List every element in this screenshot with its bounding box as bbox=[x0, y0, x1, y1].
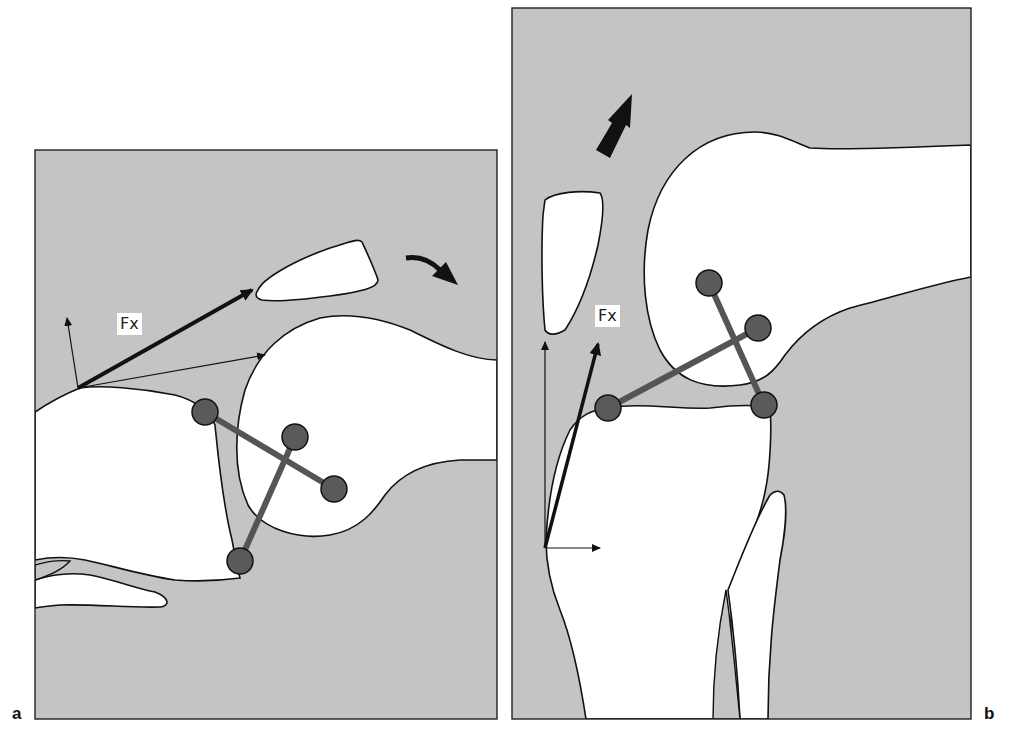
knee-mechanics-figure: Fx Fx a b bbox=[0, 0, 1009, 742]
force-label-a: Fx bbox=[117, 313, 142, 335]
force-label-b: Fx bbox=[595, 305, 620, 327]
panel-a bbox=[35, 150, 497, 719]
panel-b bbox=[512, 8, 971, 719]
panel-label-a: a bbox=[12, 704, 21, 724]
panel-label-b: b bbox=[984, 704, 994, 724]
